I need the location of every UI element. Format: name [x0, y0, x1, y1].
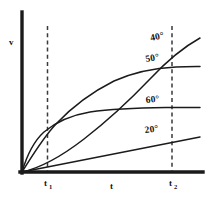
y-axis-label: v — [9, 37, 14, 47]
series-label-20-degrees: 20° — [144, 123, 159, 135]
chart-canvas: 40° 50° 60° 20° v t t 1 t 2 — [0, 0, 212, 200]
series-label-50-degrees: 50° — [145, 52, 160, 64]
tick-label-t2-subscript: 2 — [174, 183, 177, 190]
x-axis-label: t — [110, 181, 113, 191]
tick-label-t1-subscript: 1 — [49, 183, 52, 190]
series-label-60-degrees: 60° — [145, 94, 160, 105]
velocity-time-figure: 40° 50° 60° 20° v t t 1 t 2 — [0, 0, 212, 200]
curve-20-degrees — [22, 137, 200, 172]
curve-50-degrees — [22, 67, 200, 173]
curve-40-degrees — [22, 38, 200, 172]
series-label-40-degrees: 40° — [149, 30, 165, 43]
tick-label-t2: t — [169, 178, 172, 188]
curves-group — [22, 38, 200, 172]
tick-label-t1: t — [44, 178, 47, 188]
